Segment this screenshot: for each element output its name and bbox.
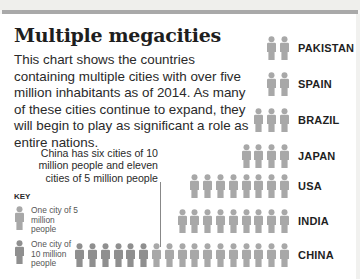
person-5m-icon [151,243,162,267]
key-label-5m: One city of 5 million people [31,206,81,235]
person-5m-icon [279,174,290,198]
annotation-leader-line [160,182,161,247]
person-5m-icon [279,72,290,96]
country-label: USA [290,180,360,192]
figure-group [266,72,290,96]
person-5m-icon [215,209,226,233]
person-5m-icon [189,209,200,233]
country-row-japan: JAPAN [241,144,360,168]
figure-group [74,243,290,267]
person-10m-icon [100,243,111,267]
figure-group [189,174,290,198]
country-label: INDIA [290,215,360,227]
person-5m-icon [228,243,239,267]
country-label: BRAZIL [290,114,360,126]
country-row-india: INDIA [177,209,360,233]
intro-text: This chart shows the countries containin… [14,52,259,152]
person-5m-icon [215,174,226,198]
person-5m-icon [279,144,290,168]
person-5m-icon [253,144,264,168]
person-5m-icon [279,108,290,132]
country-row-china: CHINA [74,243,360,267]
chart-title: Multiple megacities [14,24,221,46]
person-5m-icon [177,209,188,233]
person-5m-icon [202,174,213,198]
key-title: KEY [14,192,30,201]
country-label: SPAIN [290,78,360,90]
country-row-brazil: BRAZIL [253,108,360,132]
figure-group [266,36,290,60]
country-row-pakistan: PAKISTAN [266,36,360,60]
person-5m-icon [266,36,277,60]
person-5m-icon [177,243,188,267]
person-5m-icon [266,144,277,168]
person-5m-icon [14,206,25,230]
person-5m-icon [266,243,277,267]
person-5m-icon [228,209,239,233]
person-5m-icon [279,243,290,267]
person-5m-icon [241,243,252,267]
person-10m-icon [113,243,124,267]
person-5m-icon [266,108,277,132]
person-10m-icon [138,243,149,267]
person-10m-icon [87,243,98,267]
key-item-10m: One city of 10 million people [14,240,81,269]
key-item-5m: One city of 5 million people [14,206,81,235]
country-row-spain: SPAIN [266,72,360,96]
person-5m-icon [266,174,277,198]
person-5m-icon [279,36,290,60]
country-label: PAKISTAN [290,42,360,54]
person-5m-icon [253,174,264,198]
person-5m-icon [253,108,264,132]
person-5m-icon [164,243,175,267]
person-10m-icon [125,243,136,267]
person-5m-icon [241,209,252,233]
person-5m-icon [253,243,264,267]
china-annotation: China has six cities of 10 million peopl… [20,147,158,184]
person-5m-icon [215,243,226,267]
figure-group [241,144,290,168]
person-5m-icon [189,174,200,198]
person-5m-icon [241,144,252,168]
figure-group [177,209,290,233]
person-10m-icon [14,240,25,264]
person-10m-icon [74,243,85,267]
person-5m-icon [202,243,213,267]
person-5m-icon [228,174,239,198]
person-5m-icon [266,209,277,233]
country-label: CHINA [290,249,360,261]
person-5m-icon [241,174,252,198]
person-5m-icon [279,209,290,233]
figure-group [253,108,290,132]
person-5m-icon [202,209,213,233]
person-5m-icon [266,72,277,96]
top-texture-band [0,0,360,10]
country-label: JAPAN [290,150,360,162]
person-5m-icon [189,243,200,267]
country-row-usa: USA [189,174,360,198]
person-5m-icon [253,209,264,233]
